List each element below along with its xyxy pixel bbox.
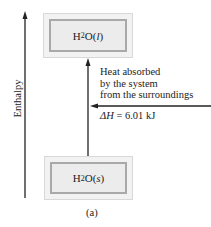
enthalpy-axis-arrow bbox=[23, 11, 28, 198]
formula-o: O bbox=[85, 30, 93, 42]
state-box-solid: H2O(s) bbox=[44, 156, 133, 200]
delta-h-value: ΔH = 6.01 kJ bbox=[100, 110, 155, 122]
delta-h-symbol: ΔH bbox=[100, 110, 114, 121]
heat-input-arrow bbox=[90, 104, 211, 109]
transition-arrow bbox=[86, 58, 91, 156]
enthalpy-diagram: Enthalpy H2O(l) H2O(s) Heat absorbed by … bbox=[0, 0, 211, 227]
axis-label: Enthalpy bbox=[12, 75, 23, 123]
description-line: Heat absorbed bbox=[100, 66, 193, 78]
description-line: by the system bbox=[100, 78, 193, 90]
phase-symbol: s bbox=[96, 172, 100, 184]
state-label-liquid: H2O(l) bbox=[49, 19, 127, 52]
formula-h: H bbox=[73, 30, 81, 42]
formula-h: H bbox=[73, 172, 81, 184]
phase-symbol: l bbox=[96, 30, 99, 42]
description-line: from the surroundings bbox=[100, 89, 193, 101]
state-label-solid: H2O(s) bbox=[50, 162, 127, 194]
state-box-liquid: H2O(l) bbox=[43, 13, 133, 58]
formula-o: O bbox=[85, 172, 93, 184]
transition-description: Heat absorbed by the system from the sur… bbox=[100, 66, 193, 101]
figure-caption: (a) bbox=[86, 207, 98, 219]
delta-h-number: = 6.01 kJ bbox=[114, 110, 156, 121]
